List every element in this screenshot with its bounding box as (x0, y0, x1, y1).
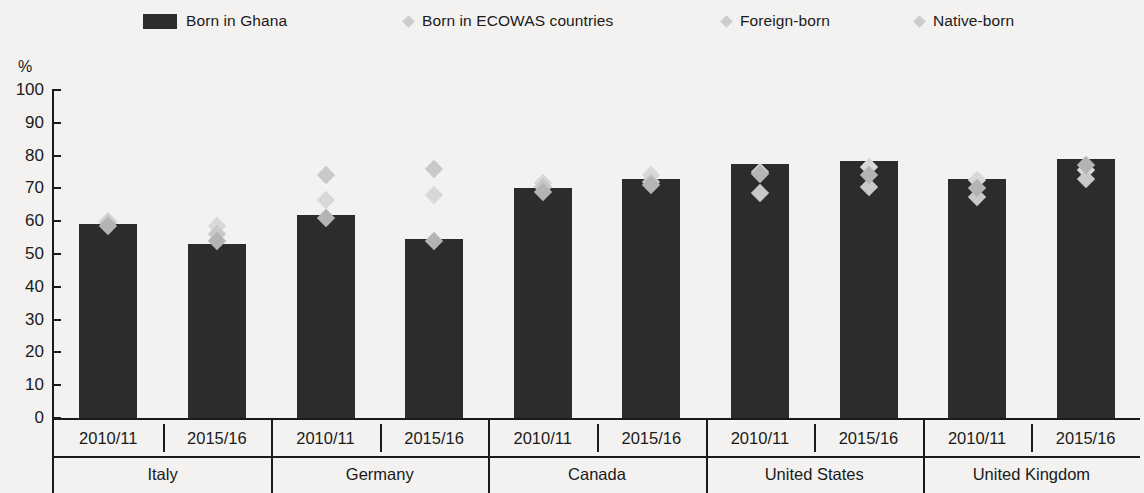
x-axis-left-border (52, 420, 54, 493)
x-axis-period-separator (163, 424, 165, 452)
x-axis-country-label: United States (706, 456, 923, 493)
x-axis-period-label: 2010/11 (271, 420, 380, 456)
x-axis-period-label: 2015/16 (814, 420, 923, 456)
x-axis-period-label: 2015/16 (163, 420, 272, 456)
x-axis-period-label: 2010/11 (54, 420, 163, 456)
x-axis-country-separator (271, 420, 273, 493)
x-axis-period-label: 2010/11 (923, 420, 1032, 456)
chart-container: Born in Ghana Born in ECOWAS countries F… (0, 0, 1144, 493)
x-axis-country-label: United Kingdom (923, 456, 1140, 493)
x-axis-country-separator (923, 420, 925, 493)
x-axis-country-separator (488, 420, 490, 493)
x-axis-period-separator (814, 424, 816, 452)
x-axis-period-separator (597, 424, 599, 452)
x-axis-period-label: 2010/11 (706, 420, 815, 456)
x-axis-period-separator (380, 424, 382, 452)
x-axis-period-separator (1031, 424, 1033, 452)
x-axis: 2010/112015/162010/112015/162010/112015/… (0, 0, 1144, 493)
x-axis-period-label: 2015/16 (1031, 420, 1140, 456)
x-axis-country-label: Italy (54, 456, 271, 493)
x-axis-period-label: 2015/16 (380, 420, 489, 456)
x-axis-country-separator (706, 420, 708, 493)
x-axis-period-label: 2015/16 (597, 420, 706, 456)
x-axis-country-label: Canada (488, 456, 705, 493)
x-axis-period-label: 2010/11 (488, 420, 597, 456)
x-axis-country-label: Germany (271, 456, 488, 493)
